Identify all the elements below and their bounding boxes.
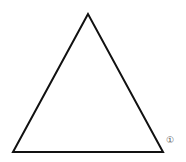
triangle-shape xyxy=(13,14,163,152)
vertex-label-1: ① xyxy=(166,136,174,145)
triangle-diagram xyxy=(0,0,186,162)
